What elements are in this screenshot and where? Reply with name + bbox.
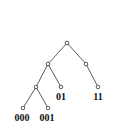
node-root bbox=[65, 41, 69, 45]
label-000: 000 bbox=[15, 112, 30, 123]
node-1 bbox=[84, 62, 88, 66]
node-001 bbox=[46, 106, 50, 110]
label-01: 01 bbox=[56, 91, 66, 102]
edge-00-000 bbox=[23, 87, 36, 108]
node-01 bbox=[59, 85, 63, 89]
edge-root-1 bbox=[67, 43, 86, 64]
node-000 bbox=[21, 106, 25, 110]
node-00 bbox=[34, 85, 38, 89]
node-0 bbox=[46, 62, 50, 66]
edge-0-00 bbox=[36, 64, 48, 87]
label-11: 11 bbox=[93, 91, 102, 102]
edge-root-0 bbox=[48, 43, 67, 64]
trie-diagram: 01 11 000 001 bbox=[0, 0, 114, 130]
edge-0-01 bbox=[48, 64, 61, 87]
node-11 bbox=[96, 85, 100, 89]
edge-00-001 bbox=[36, 87, 48, 108]
label-001: 001 bbox=[40, 112, 55, 123]
edge-1-11 bbox=[86, 64, 98, 87]
